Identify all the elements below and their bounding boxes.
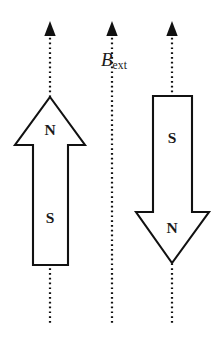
left-magnet-north-label: N <box>44 121 55 138</box>
field-arrowhead-right-icon <box>166 21 177 36</box>
right-magnet-outline <box>136 96 209 263</box>
field-label-subscript: ext <box>113 59 127 71</box>
right-magnet-south-label: S <box>168 129 177 146</box>
left-magnet: N S <box>15 97 85 265</box>
left-magnet-south-label: S <box>46 209 55 226</box>
field-label-symbol: B <box>101 49 113 70</box>
external-field-label: Bext <box>101 50 127 72</box>
field-arrowhead-middle-icon <box>106 21 117 36</box>
magnetic-field-figure: N S S N Bext <box>0 0 216 337</box>
right-magnet-north-label: N <box>166 219 177 236</box>
field-arrowhead-left-icon <box>44 21 55 36</box>
right-magnet: S N <box>136 96 209 263</box>
